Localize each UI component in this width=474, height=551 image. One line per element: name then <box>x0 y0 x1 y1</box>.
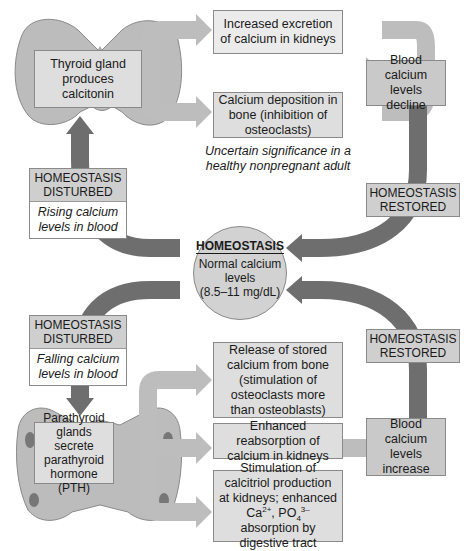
disturbed-header-line2: DISTURBED <box>30 185 126 199</box>
restored-line2: RESTORED <box>367 200 459 214</box>
thyroid-gland-box: Thyroid gland produces calcitonin <box>34 50 142 108</box>
center-text-line2: levels <box>194 271 286 285</box>
effect-box-increased-excretion: Increased excretion of calcium in kidney… <box>213 10 343 54</box>
disturbed-header-line1: HOMEOSTASIS <box>30 318 126 332</box>
effect-label: Stimulation of calcitriol production at … <box>218 461 338 551</box>
restored-line1: HOMEOSTASIS <box>367 332 459 346</box>
center-text-line1: Normal calcium <box>194 257 286 271</box>
restored-line2: RESTORED <box>367 346 459 360</box>
disturbed-header: HOMEOSTASIS DISTURBED <box>30 169 126 202</box>
center-text: Normal calcium levels (8.5–11 mg/dL) <box>194 257 286 299</box>
homeostasis-disturbed-rising: HOMEOSTASIS DISTURBED Rising calcium lev… <box>29 168 127 239</box>
center-text-line3: (8.5–11 mg/dL) <box>194 285 286 299</box>
disturbed-header-line1: HOMEOSTASIS <box>30 171 126 185</box>
effect-label: Calcium deposition in bone (inhibition o… <box>218 93 338 138</box>
effect-label-part3: absorption by digestive tract <box>239 521 316 550</box>
effect-label: Release of stored calcium from bone (sti… <box>218 343 338 418</box>
calcium-charge: 2+ <box>262 505 271 514</box>
effect-label: Increased excretion of calcium in kidney… <box>218 17 338 47</box>
result-box-calcium-decline: Blood calcium levels decline <box>366 60 446 106</box>
parathyroid-gland-box: Parathyroid glands secrete parathyroid h… <box>34 422 114 484</box>
result-box-calcium-increase: Blood calcium levels increase <box>366 418 446 476</box>
result-label: Blood calcium levels decline <box>371 53 441 113</box>
effect-box-reabsorption: Enhanced reabsorption of calcium in kidn… <box>213 423 343 459</box>
disturbed-detail: Rising calcium levels in blood <box>30 202 126 238</box>
restored-line1: HOMEOSTASIS <box>367 186 459 200</box>
uncertain-significance-note: Uncertain significance in a healthy nonp… <box>205 144 351 174</box>
disturbed-header: HOMEOSTASIS DISTURBED <box>30 316 126 349</box>
center-title: HOMEOSTASIS <box>194 239 286 253</box>
effect-label: Enhanced reabsorption of calcium in kidn… <box>218 419 338 464</box>
phosphate-charge: 3– <box>301 505 310 514</box>
homeostasis-restored-lower: HOMEOSTASIS RESTORED <box>366 329 460 363</box>
disturbed-detail: Falling calcium levels in blood <box>30 349 126 385</box>
effect-box-calcitriol: Stimulation of calcitriol production at … <box>213 470 343 542</box>
effect-box-calcium-deposition: Calcium deposition in bone (inhibition o… <box>213 92 343 138</box>
homeostasis-restored-upper: HOMEOSTASIS RESTORED <box>366 183 460 217</box>
homeostasis-center: HOMEOSTASIS Normal calcium levels (8.5–1… <box>193 226 287 320</box>
homeostasis-disturbed-falling: HOMEOSTASIS DISTURBED Falling calcium le… <box>29 315 127 386</box>
effect-label-part2: , PO <box>271 506 296 520</box>
result-label: Blood calcium levels increase <box>371 417 441 477</box>
disturbed-header-line2: DISTURBED <box>30 332 126 346</box>
thyroid-gland-label: Thyroid gland produces calcitonin <box>39 57 137 102</box>
parathyroid-gland-label: Parathyroid glands secrete parathyroid h… <box>39 411 109 495</box>
effect-box-release-calcium: Release of stored calcium from bone (sti… <box>213 342 343 418</box>
